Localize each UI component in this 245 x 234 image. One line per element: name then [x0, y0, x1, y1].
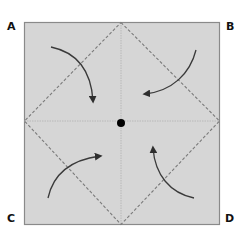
corner-label-b: B	[226, 21, 234, 32]
corner-label-c: C	[7, 213, 15, 224]
origami-diagram	[0, 0, 245, 234]
corner-label-a: A	[7, 21, 16, 32]
center-dot	[117, 119, 125, 127]
corner-label-d: D	[225, 213, 234, 224]
